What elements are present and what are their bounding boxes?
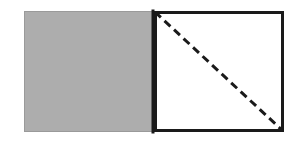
diagram-svg (0, 0, 296, 146)
shaded-square (25, 12, 154, 132)
figure-canvas (0, 0, 296, 146)
